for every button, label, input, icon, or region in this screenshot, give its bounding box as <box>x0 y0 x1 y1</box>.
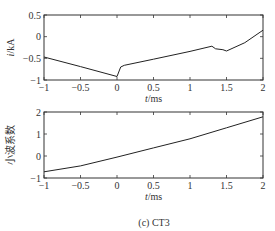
axes-frame <box>44 15 263 80</box>
y-tick-label: −1 <box>30 75 41 86</box>
figure-caption: (c) CT3 <box>138 217 169 229</box>
x-tick-label: 0 <box>115 82 120 93</box>
y-tick-label: 0.5 <box>29 10 42 21</box>
x-tick-label: 0 <box>115 180 120 191</box>
data-line <box>44 30 263 76</box>
axes-frame <box>44 112 263 178</box>
x-tick-label: 2 <box>261 180 266 191</box>
x-tick-label: −0.5 <box>71 82 89 93</box>
x-tick-label: 1.5 <box>220 180 233 191</box>
y-tick-label: 0 <box>36 151 41 162</box>
current-plot: −1−0.500.511.52−1−0.500.5t/msi/kA <box>5 10 266 105</box>
x-tick-label: 1 <box>188 180 193 191</box>
y-tick-label: −0.5 <box>23 53 41 64</box>
y-axis-label: 小波系数 <box>4 125 16 165</box>
figure: −1−0.500.511.52−1−0.500.5t/msi/kA −1−0.5… <box>0 0 275 231</box>
x-tick-label: 0.5 <box>147 82 160 93</box>
x-tick-label: 1 <box>188 82 193 93</box>
y-axis-label: i/kA <box>5 38 16 57</box>
x-axis-label: t/ms <box>145 93 162 104</box>
y-tick-label: −1 <box>30 173 41 184</box>
y-tick-label: 0 <box>36 31 41 42</box>
y-tick-label: 1 <box>36 129 41 140</box>
x-tick-label: 0.5 <box>147 180 160 191</box>
x-tick-label: −0.5 <box>71 180 89 191</box>
x-axis-label: t/ms <box>145 191 162 202</box>
x-tick-label: 1.5 <box>220 82 233 93</box>
wavelet-plot: −1−0.500.511.52−1012t/ms小波系数 <box>4 107 266 203</box>
y-tick-label: 2 <box>36 107 41 118</box>
x-tick-label: 2 <box>261 82 266 93</box>
data-line <box>44 117 263 172</box>
